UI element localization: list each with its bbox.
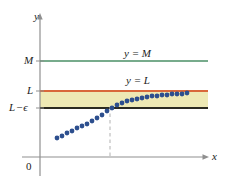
data-point [180, 92, 185, 97]
data-point [105, 109, 110, 114]
data-point [140, 96, 145, 101]
limit-figure: y x M L L−ϵ 0 y = M y = L [0, 0, 226, 187]
line-M-annotation: y = M [124, 48, 151, 59]
data-point [100, 113, 105, 118]
data-point [125, 99, 130, 104]
data-point [120, 101, 125, 106]
data-point [115, 103, 120, 108]
tick-label-L-minus-epsilon: L−ϵ [9, 102, 28, 113]
data-point [150, 94, 155, 99]
origin-label: 0 [26, 161, 32, 172]
data-point [185, 91, 190, 96]
data-point [155, 94, 160, 99]
data-point [130, 98, 135, 103]
plot-canvas [0, 0, 226, 187]
data-point [165, 93, 170, 98]
data-point [170, 92, 175, 97]
data-point [145, 95, 150, 100]
data-point [70, 129, 75, 134]
y-axis-label: y [34, 11, 39, 22]
data-point [80, 124, 85, 129]
data-point [110, 106, 115, 111]
data-point [60, 134, 65, 139]
x-axis-label: x [212, 151, 217, 162]
epsilon-symbol: ϵ [23, 101, 27, 113]
line-L-annotation: y = L [126, 75, 150, 86]
tick-label-M: M [24, 55, 33, 66]
data-point [90, 119, 95, 124]
data-point [135, 97, 140, 102]
tick-label-L: L [27, 85, 33, 96]
data-point [85, 122, 90, 127]
data-point [175, 92, 180, 97]
data-point [160, 93, 165, 98]
data-point [95, 116, 100, 121]
data-point [75, 126, 80, 131]
data-point [55, 136, 60, 141]
data-point [65, 131, 70, 136]
